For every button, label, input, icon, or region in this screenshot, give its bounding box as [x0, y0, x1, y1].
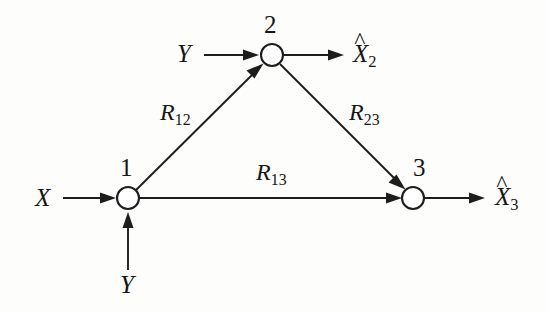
edge-r12: [136, 64, 264, 191]
r23-subscript: 23: [364, 111, 380, 128]
y-input-node1-label: Y: [120, 272, 134, 297]
xhat3-label: ^X3: [495, 184, 519, 213]
xhat3-output-arrowhead: [469, 193, 485, 204]
xhat2-label: ^X2: [353, 41, 377, 70]
xhat3-hat-group: ^X: [495, 184, 510, 209]
r12-arrowhead: [247, 64, 264, 79]
edge-x-input-to-node1: [63, 193, 116, 204]
r13-subscript: 13: [271, 171, 287, 188]
r12-line: [136, 73, 254, 190]
diagram-canvas: [0, 0, 548, 313]
xhat3-subscript: 3: [510, 195, 518, 214]
r23-arrowhead: [389, 175, 406, 190]
edge-node3-to-xhat3: [425, 193, 485, 204]
xhat2-hat-mark: ^: [354, 29, 365, 53]
xhat2-hat-group: ^X: [353, 41, 368, 66]
r12-subscript: 12: [175, 111, 191, 128]
node-3-label: 3: [413, 155, 426, 180]
node-2-circle[interactable]: [261, 44, 283, 66]
r23-label: R23: [349, 100, 380, 128]
edge-r23: [280, 64, 406, 190]
edge-node2-to-xhat2: [284, 50, 344, 61]
r13-label: R13: [256, 160, 287, 188]
xhat2-subscript: 2: [368, 52, 376, 71]
y-bottom-input-arrowhead: [123, 212, 134, 228]
edge-y-input-to-node1: [123, 212, 134, 270]
xhat2-output-arrowhead: [328, 50, 344, 61]
node-3-circle[interactable]: [402, 187, 424, 209]
y-input-node2-label: Y: [177, 41, 191, 66]
r13-base: R: [256, 159, 271, 185]
x-input-label: X: [35, 185, 50, 210]
x-input-arrowhead: [100, 193, 116, 204]
node-2-label: 2: [264, 12, 277, 37]
relay-network-diagram: 1 2 3 X Y Y R12 R23 R13 ^X2 ^X3: [0, 0, 548, 313]
xhat3-hat-mark: ^: [496, 172, 507, 196]
edge-r13: [139, 193, 402, 204]
node-1-circle[interactable]: [117, 187, 139, 209]
edge-y-input-to-node2: [204, 50, 259, 61]
r13-arrowhead: [386, 193, 402, 204]
r12-label: R12: [160, 100, 191, 128]
node-1-label: 1: [120, 155, 133, 180]
r23-base: R: [349, 99, 364, 125]
y-left-input-arrowhead: [243, 50, 259, 61]
r12-base: R: [160, 99, 175, 125]
